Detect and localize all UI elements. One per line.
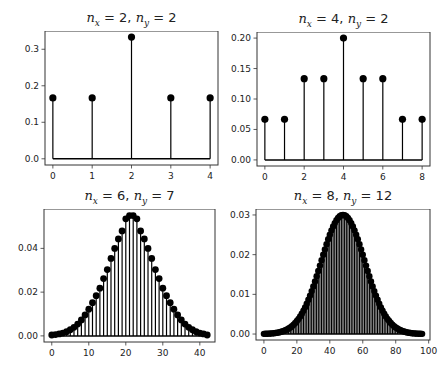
stem-marker bbox=[119, 227, 126, 234]
y-tick-label: 0.10 bbox=[231, 94, 251, 104]
y-tick-label: 0.01 bbox=[230, 289, 250, 299]
stem-marker bbox=[156, 275, 163, 282]
y-tick-label: 0.0 bbox=[25, 154, 40, 164]
y-tick-label: 0.3 bbox=[25, 44, 39, 54]
x-tick-label: 2 bbox=[301, 172, 307, 182]
x-tick-label: 60 bbox=[357, 346, 369, 356]
stem-marker bbox=[128, 33, 135, 40]
stem-marker bbox=[399, 116, 406, 123]
stem-marker bbox=[163, 292, 170, 299]
x-tick-label: 8 bbox=[419, 172, 425, 182]
stem-marker bbox=[320, 75, 327, 82]
stem-marker bbox=[85, 306, 92, 313]
stem-marker bbox=[111, 245, 118, 252]
y-tick-label: 0.02 bbox=[18, 287, 38, 297]
y-tick-label: 0.00 bbox=[18, 331, 38, 341]
y-tick-label: 0.05 bbox=[231, 124, 251, 134]
stem-marker bbox=[100, 275, 107, 282]
stem-marker bbox=[318, 257, 324, 263]
stem-marker bbox=[363, 262, 369, 268]
x-tick-label: 0 bbox=[261, 346, 267, 356]
stem-marker bbox=[379, 75, 386, 82]
stem-marker bbox=[361, 257, 367, 263]
x-tick-label: 6 bbox=[380, 172, 386, 182]
subplot-title: nx = 4, ny = 2 bbox=[257, 11, 430, 29]
y-tick-label: 0.00 bbox=[230, 329, 250, 339]
stem-marker bbox=[261, 116, 268, 123]
x-tick-label: 20 bbox=[291, 346, 303, 356]
stem-marker bbox=[93, 292, 100, 299]
y-tick-label: 0.02 bbox=[230, 250, 250, 260]
x-tick-label: 0 bbox=[49, 348, 55, 358]
plot-area: 0102030400.000.020.04 bbox=[0, 209, 230, 371]
x-tick-label: 3 bbox=[168, 171, 174, 181]
stem-marker bbox=[82, 311, 89, 318]
y-tick-label: 0.03 bbox=[230, 210, 250, 220]
stem-marker bbox=[204, 332, 211, 339]
stem-marker bbox=[315, 268, 321, 274]
x-tick-label: 1 bbox=[89, 171, 95, 181]
stem-marker bbox=[49, 94, 56, 101]
stem-marker bbox=[137, 227, 144, 234]
y-tick-label: 0.00 bbox=[231, 155, 251, 165]
plot-area: 0204060801000.000.010.020.03 bbox=[211, 209, 445, 371]
x-tick-label: 0 bbox=[50, 171, 56, 181]
y-tick-label: 0.1 bbox=[25, 117, 39, 127]
stem-marker bbox=[104, 266, 111, 273]
stem-marker bbox=[148, 255, 155, 262]
stem-marker bbox=[419, 116, 426, 123]
x-tick-label: 4 bbox=[341, 172, 347, 182]
stem-marker bbox=[340, 34, 347, 41]
y-tick-label: 0.15 bbox=[231, 64, 251, 74]
x-tick-label: 100 bbox=[420, 346, 437, 356]
stem-marker bbox=[360, 75, 367, 82]
x-tick-label: 10 bbox=[83, 348, 95, 358]
stem-marker bbox=[159, 285, 166, 292]
stem-marker bbox=[167, 94, 174, 101]
stem-marker bbox=[89, 299, 96, 306]
x-tick-label: 0 bbox=[262, 172, 268, 182]
x-tick-label: 30 bbox=[157, 348, 169, 358]
stem-marker bbox=[108, 255, 115, 262]
y-tick-label: 0.04 bbox=[18, 243, 38, 253]
stem-marker bbox=[115, 236, 122, 243]
x-tick-label: 40 bbox=[194, 348, 206, 358]
y-tick-label: 0.20 bbox=[231, 33, 251, 43]
stem-marker bbox=[317, 262, 323, 268]
stem-marker bbox=[419, 331, 425, 337]
stem-marker bbox=[171, 306, 178, 313]
x-tick-label: 40 bbox=[324, 346, 336, 356]
x-tick-label: 80 bbox=[390, 346, 402, 356]
stem-marker bbox=[145, 245, 152, 252]
stem-marker bbox=[301, 75, 308, 82]
stem-marker bbox=[152, 266, 159, 273]
stem-marker bbox=[134, 215, 141, 222]
x-tick-label: 20 bbox=[120, 348, 132, 358]
stem-marker bbox=[281, 116, 288, 123]
stem-marker bbox=[96, 285, 103, 292]
subplot-title: nx = 8, ny = 12 bbox=[256, 188, 430, 206]
subplot-title: nx = 2, ny = 2 bbox=[45, 10, 218, 28]
stem-marker bbox=[89, 94, 96, 101]
stem-marker bbox=[360, 252, 366, 258]
subplot-title: nx = 6, ny = 7 bbox=[44, 188, 215, 206]
y-tick-label: 0.2 bbox=[25, 81, 39, 91]
x-tick-label: 2 bbox=[129, 171, 135, 181]
stem-marker bbox=[167, 299, 174, 306]
stem-marker bbox=[141, 236, 148, 243]
